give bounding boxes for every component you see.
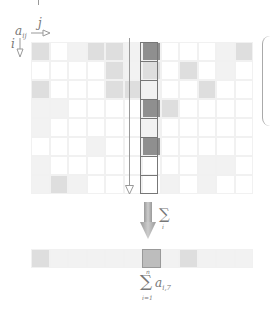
highlight-row-divider — [140, 118, 159, 119]
highlight-row-divider — [140, 80, 159, 81]
highlight-row-divider — [140, 99, 159, 100]
matrix-cell — [179, 99, 198, 118]
matrix-cell — [198, 175, 217, 194]
matrix-cell — [105, 61, 124, 80]
highlight-row-divider — [140, 61, 159, 62]
matrix-cell — [216, 175, 235, 194]
matrix-cell — [179, 80, 198, 99]
matrix-cell — [179, 61, 198, 80]
matrix-cell — [235, 175, 254, 194]
matrix-cell — [68, 99, 87, 118]
matrix-cell — [198, 137, 217, 156]
sum-operator-sub: i — [162, 223, 164, 230]
highlight-row-divider — [140, 156, 159, 157]
matrix-cell — [31, 99, 50, 118]
matrix-cell — [68, 61, 87, 80]
matrix-cell — [179, 42, 198, 61]
top-tick — [38, 0, 39, 5]
matrix-cell — [216, 61, 235, 80]
matrix-cell — [68, 175, 87, 194]
matrix-cell — [68, 118, 87, 137]
result-row — [31, 249, 253, 268]
matrix-cell — [31, 80, 50, 99]
col-index-label: j — [38, 16, 42, 30]
matrix-cell — [31, 42, 50, 61]
matrix-cell — [31, 175, 50, 194]
result-cell — [198, 249, 217, 268]
matrix-cell — [87, 42, 106, 61]
matrix-cell — [50, 42, 69, 61]
result-cell — [216, 249, 235, 268]
matrix-cell — [179, 137, 198, 156]
matrix-cell — [68, 80, 87, 99]
matrix-cell — [198, 61, 217, 80]
highlight-row-divider — [140, 137, 159, 138]
matrix-cell — [105, 42, 124, 61]
matrix-cell — [198, 42, 217, 61]
matrix-cell — [87, 137, 106, 156]
matrix-cell — [31, 118, 50, 137]
matrix-cell — [179, 118, 198, 137]
highlight-row-divider — [140, 175, 159, 176]
matrix-cell — [50, 137, 69, 156]
formula-term-subscript: i,7 — [162, 284, 171, 292]
matrix-cell — [68, 42, 87, 61]
sum-operator: ∑ — [159, 205, 170, 223]
result-cell — [31, 249, 50, 268]
matrix-cell — [87, 80, 106, 99]
matrix-cell — [216, 118, 235, 137]
result-cell — [50, 249, 69, 268]
result-cell — [68, 249, 87, 268]
row-index-label: i — [11, 37, 15, 51]
right-arrow-icon — [31, 29, 51, 37]
matrix-cell — [198, 80, 217, 99]
matrix-cell — [216, 99, 235, 118]
matrix-cell — [87, 156, 106, 175]
down-arrow-icon — [16, 38, 24, 58]
scan-arrow-icon — [125, 185, 134, 195]
matrix-cell — [87, 118, 106, 137]
matrix-cell — [235, 42, 254, 61]
matrix-cell — [161, 175, 180, 194]
matrix-cell — [31, 156, 50, 175]
matrix-cell — [161, 61, 180, 80]
matrix-cell — [235, 61, 254, 80]
matrix-cell — [235, 118, 254, 137]
matrix-cell — [50, 118, 69, 137]
matrix-cell — [161, 118, 180, 137]
result-cell — [124, 249, 143, 268]
result-cell — [161, 249, 180, 268]
matrix-cell — [235, 137, 254, 156]
matrix-cell — [161, 156, 180, 175]
matrix-cell — [216, 80, 235, 99]
matrix-cell — [50, 156, 69, 175]
matrix-cell — [68, 156, 87, 175]
matrix-cell — [161, 42, 180, 61]
matrix-cell — [50, 61, 69, 80]
matrix-cell — [198, 118, 217, 137]
matrix-cell — [87, 61, 106, 80]
matrix-cell — [161, 137, 180, 156]
matrix-cell — [216, 156, 235, 175]
formula-term: ai,7 — [155, 276, 171, 292]
matrix-cell — [179, 156, 198, 175]
matrix-cell — [198, 156, 217, 175]
matrix-cell — [235, 80, 254, 99]
matrix-cell — [105, 156, 124, 175]
matrix-cell — [216, 42, 235, 61]
matrix-cell — [31, 61, 50, 80]
matrix-cell — [105, 175, 124, 194]
matrix-cell — [50, 80, 69, 99]
matrix-cell — [198, 99, 217, 118]
matrix-cell — [105, 80, 124, 99]
matrix-cell — [87, 175, 106, 194]
result-cell — [87, 249, 106, 268]
right-bracket — [262, 36, 270, 126]
matrix-cell — [235, 99, 254, 118]
matrix-cell — [161, 80, 180, 99]
matrix-cell — [105, 137, 124, 156]
column-scan-line — [129, 38, 130, 188]
matrix-cell — [31, 137, 50, 156]
matrix-cell — [235, 156, 254, 175]
result-cell — [142, 249, 161, 268]
